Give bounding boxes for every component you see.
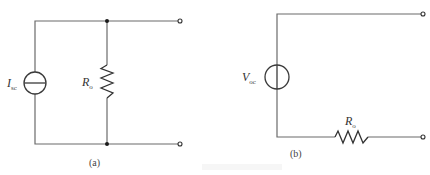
junction-node xyxy=(105,19,109,23)
circuit-a: Isc Ro (a) xyxy=(6,19,182,169)
circuit-diagram: Isc Ro (a) Voc Ro (b) xyxy=(0,0,430,175)
voltage-source-label: Voc xyxy=(242,70,256,86)
terminal-icon xyxy=(421,135,425,139)
terminal-icon xyxy=(178,19,182,23)
wire-b-top xyxy=(277,14,421,65)
terminal-icon xyxy=(178,142,182,146)
resistor-label: Ro xyxy=(344,114,356,130)
junction-node xyxy=(105,142,109,146)
wire-b-bottom-left xyxy=(277,89,335,137)
caption-a: (a) xyxy=(89,157,100,169)
current-source-label: Isc xyxy=(6,76,17,92)
current-source-icon xyxy=(24,72,46,94)
caption-b: (b) xyxy=(290,148,302,160)
voltage-source-icon xyxy=(265,65,289,89)
resistor-icon xyxy=(101,65,113,98)
resistor-label: Ro xyxy=(81,75,93,91)
resistor-icon xyxy=(335,131,368,143)
circuit-b: Voc Ro (b) xyxy=(242,12,425,160)
faint-caption-smudge xyxy=(202,164,282,170)
terminal-icon xyxy=(421,12,425,16)
